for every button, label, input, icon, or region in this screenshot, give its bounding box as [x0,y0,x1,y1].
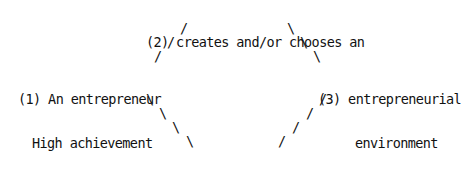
node-4-develops: (4) which developes him/her as [146,146,372,174]
edge-4-to-1-segment: \ [186,134,194,148]
node-2-creates: (2) creates and/or chooses an [146,6,364,64]
edge-4-to-1-segment: \ [159,106,167,120]
edge-1-to-2-segment: / [180,21,188,35]
node-1-entrepreneur: (1) An entrepreneur High achievement mot… [18,63,161,174]
edge-2-to-3-segment: \ [300,35,308,49]
edge-4-to-1-segment: \ [146,92,154,106]
edge-1-to-2-segment: / [167,35,175,49]
edge-2-to-3-segment: \ [313,49,321,63]
node-1-attr-achievement: High achievement [18,136,161,151]
node-3-title: (3) entrepreneurial [318,92,461,107]
edge-3-to-4-segment: / [292,120,300,134]
edge-3-to-4-segment: / [278,134,286,148]
edge-1-to-2-segment: / [154,49,162,63]
edge-3-to-4-segment: / [306,106,314,120]
node-1-title: (1) An entrepreneur [18,92,161,107]
edge-3-to-4-segment: / [319,92,327,106]
edge-2-to-3-segment: \ [287,21,295,35]
edge-4-to-1-segment: \ [172,120,180,134]
node-2-title: (2) creates and/or chooses an [146,35,364,50]
